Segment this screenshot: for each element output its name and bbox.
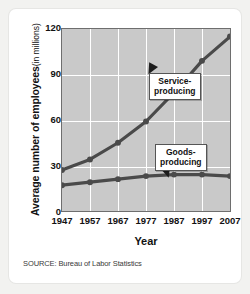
- y-tick-120: 120: [33, 23, 61, 32]
- data-point: [87, 156, 93, 162]
- x-axis-label: Year: [61, 235, 231, 247]
- source-note: SOURCE: Bureau of Labor Statistics: [23, 259, 142, 268]
- data-point: [62, 182, 65, 188]
- x-tick-2007: 2007: [210, 215, 241, 226]
- annotation-line-1: Goods-: [160, 147, 202, 157]
- data-point: [143, 119, 149, 125]
- data-point: [115, 140, 121, 146]
- y-tick-30: 30: [33, 161, 61, 170]
- data-point: [227, 173, 230, 179]
- annotation-goods-producing: Goods- producing: [155, 144, 207, 171]
- y-tick-90: 90: [33, 69, 61, 78]
- data-point: [115, 176, 121, 182]
- line-chart-figure: Average number of employees(in millions)…: [9, 9, 241, 283]
- plot-area: [61, 28, 231, 212]
- data-point: [87, 179, 93, 185]
- y-tick-60: 60: [33, 115, 61, 124]
- y-axis-ticks: 120 90 60 30 0: [27, 9, 61, 283]
- data-point: [199, 58, 205, 64]
- chart-card: Average number of employees(in millions)…: [9, 9, 241, 283]
- annotation-service-producing: Service- producing: [149, 73, 201, 100]
- annotation-line-2: producing: [160, 157, 202, 167]
- series-lines: [62, 29, 230, 211]
- series-markers-goods-producing: [62, 172, 230, 189]
- annotation-line-2: producing: [154, 86, 196, 96]
- data-point: [199, 172, 205, 178]
- data-point: [143, 173, 149, 179]
- annotation-line-1: Service-: [154, 76, 196, 86]
